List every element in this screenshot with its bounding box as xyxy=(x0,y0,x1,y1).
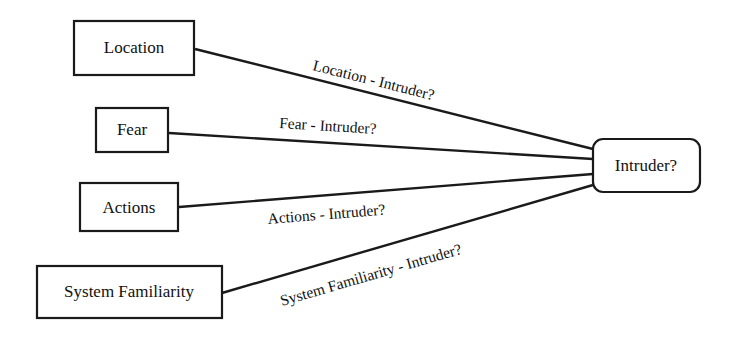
edge-fear-intruder xyxy=(169,133,593,159)
edge-label-actions-intruder: Actions - Intruder? xyxy=(267,201,386,227)
node-system-familiarity: System Familiarity xyxy=(37,266,222,318)
edge-location-intruder xyxy=(195,49,593,149)
node-label-fear: Fear xyxy=(117,120,148,139)
node-label-location: Location xyxy=(104,38,165,57)
diagram-canvas: Location - Intruder? Fear - Intruder? Ac… xyxy=(0,0,736,338)
edge-label-fear-intruder: Fear - Intruder? xyxy=(279,114,377,137)
edge-label-location-intruder: Location - Intruder? xyxy=(311,56,436,103)
node-label-intruder: Intruder? xyxy=(615,156,677,175)
edge-system-familiarity-intruder xyxy=(222,185,593,293)
node-location: Location xyxy=(74,21,194,75)
node-label-system-familiarity: System Familiarity xyxy=(64,282,194,301)
node-fear: Fear xyxy=(96,108,168,152)
node-intruder: Intruder? xyxy=(593,139,700,192)
node-actions: Actions xyxy=(80,183,178,231)
node-label-actions: Actions xyxy=(103,198,156,217)
